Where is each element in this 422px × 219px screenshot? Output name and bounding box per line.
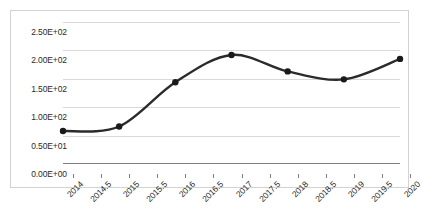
chart-container: 0.00E+000.50E+011.00E+021.50E+022.00E+02… xyxy=(10,10,409,188)
y-axis-tick-label: 0.50E+01 xyxy=(31,141,67,151)
data-point-marker xyxy=(284,68,290,74)
x-axis-tick-label: 2014.5 xyxy=(88,179,113,204)
x-axis-tick-mark xyxy=(185,174,186,178)
x-axis-tick-mark xyxy=(382,174,383,178)
x-axis-tick-mark xyxy=(410,174,411,178)
data-point-marker xyxy=(172,79,178,85)
x-axis-tick-label: 2019.5 xyxy=(369,179,394,204)
x-axis-tick-mark xyxy=(157,174,158,178)
x-axis-tick-label: 2017 xyxy=(233,179,253,199)
x-axis-tick-label: 2019 xyxy=(346,179,366,199)
x-axis-tick-mark xyxy=(213,174,214,178)
x-axis-tick-mark xyxy=(270,174,271,178)
x-axis-tick-mark xyxy=(73,174,74,178)
x-axis-tick-label: 2016.5 xyxy=(200,179,225,204)
x-axis-tick-label: 2015.5 xyxy=(144,179,169,204)
plot-area xyxy=(63,22,400,164)
y-axis-tick-label: 0.00E+00 xyxy=(31,169,67,179)
x-axis-tick-label: 2015 xyxy=(121,179,141,199)
y-axis-tick-label: 2.50E+02 xyxy=(31,27,67,37)
x-axis-tick-label: 2020 xyxy=(402,179,422,199)
y-axis-tick-label: 2.00E+02 xyxy=(31,55,67,65)
data-point-marker xyxy=(341,76,347,82)
data-point-marker xyxy=(116,123,122,129)
x-axis-tick-mark xyxy=(101,174,102,178)
x-axis-tick-mark xyxy=(326,174,327,178)
y-axis-tick-labels: 0.00E+000.50E+011.00E+021.50E+022.00E+02… xyxy=(11,32,67,174)
y-axis-tick-label: 1.50E+02 xyxy=(31,84,67,94)
x-axis-tick-labels: 20142014.520152015.520162016.520172017.5… xyxy=(73,179,410,219)
x-axis-tick-mark xyxy=(354,174,355,178)
series-line xyxy=(63,55,400,132)
x-axis-tick-label: 2016 xyxy=(177,179,197,199)
data-point-marker xyxy=(397,56,403,62)
x-axis-tick-mark xyxy=(242,174,243,178)
line-series xyxy=(63,22,400,164)
x-axis-tick-mark xyxy=(129,174,130,178)
x-axis-tick-label: 2018 xyxy=(290,179,310,199)
x-axis-tick-label: 2018.5 xyxy=(313,179,338,204)
x-axis-tick-label: 2017.5 xyxy=(257,179,282,204)
data-point-marker xyxy=(228,52,234,58)
data-point-marker xyxy=(60,128,66,134)
x-axis-tick-mark xyxy=(298,174,299,178)
y-axis-tick-label: 1.00E+02 xyxy=(31,112,67,122)
x-axis-tick-label: 2014 xyxy=(65,179,85,199)
